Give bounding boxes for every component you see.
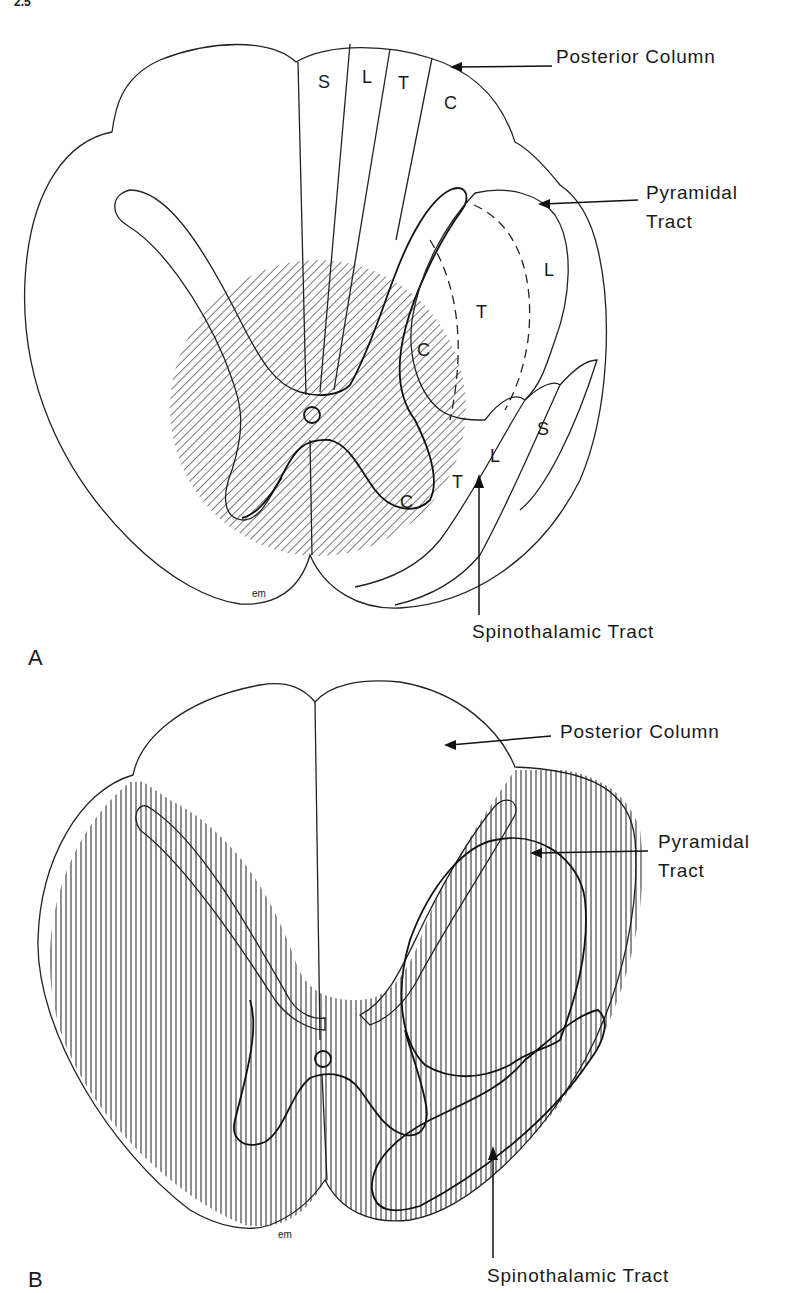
- header-text: 2.5: [14, 0, 31, 9]
- posterior-column-label-a: Posterior Column: [556, 46, 716, 67]
- pc-segment-t: T: [398, 73, 409, 93]
- pt-segment-l: L: [544, 260, 554, 280]
- arrowhead-icon: [474, 474, 484, 488]
- pc-segment-c: C: [444, 93, 457, 113]
- artist-signature-a: em: [252, 588, 266, 599]
- posterior-column-arrow-a: [455, 66, 552, 67]
- pc-segment-s: S: [318, 72, 330, 92]
- posterior-column-label-b: Posterior Column: [560, 721, 720, 742]
- central-lesion-shading: [170, 260, 466, 556]
- spinothalamic-label-b: Spinothalamic Tract: [487, 1265, 669, 1286]
- panel-letter-b: B: [28, 1267, 43, 1292]
- pyramidal-arrow-a: [543, 200, 638, 204]
- panel-letter-a: A: [28, 645, 43, 670]
- stt-segment-l: L: [490, 446, 500, 466]
- spinal-cord-figure: 2.5 S L T C C T L: [0, 0, 787, 1293]
- pyramidal-label-a-line2: Tract: [646, 211, 693, 232]
- pyramidal-label-a-line1: Pyramidal: [646, 182, 738, 203]
- stt-segment-s: S: [537, 419, 549, 439]
- panel-a: S L T C C T L C T L S Posterior Column P…: [25, 44, 738, 670]
- stt-segment-c: C: [400, 492, 413, 512]
- pyramidal-label-b-line1: Pyramidal: [658, 831, 750, 852]
- pyramidal-label-b-line2: Tract: [658, 860, 705, 881]
- stt-segment-t: T: [452, 472, 463, 492]
- pc-segment-l: L: [362, 67, 372, 87]
- pt-segment-t: T: [476, 302, 487, 322]
- panel-b: Posterior Column Pyramidal Tract Spinoth…: [0, 681, 787, 1292]
- stt-lamina-3: [520, 360, 597, 510]
- artist-signature-b: em: [278, 1229, 292, 1240]
- spinothalamic-label-a: Spinothalamic Tract: [472, 621, 654, 642]
- pt-segment-c: C: [417, 340, 430, 360]
- arrowhead-icon: [450, 62, 462, 72]
